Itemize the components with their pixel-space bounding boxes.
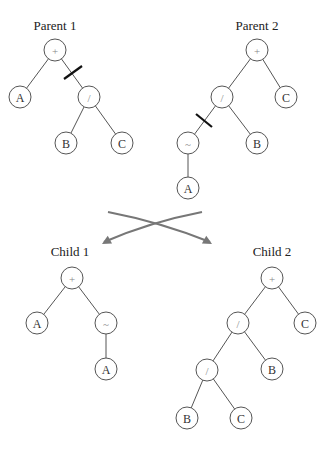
terminal-label: A: [102, 363, 111, 377]
tree-node-p2-tilde: ~: [177, 132, 199, 154]
crossover-diagram: +A/BC+/C~BA+A~A+/C/BBC Parent 1Parent 2C…: [0, 0, 329, 453]
tree-node-p2-c: C: [275, 86, 297, 108]
tree-node-p1-plus: +: [44, 39, 66, 61]
nodes-layer: +A/BC+/C~BA+A~A+/C/BBC: [9, 39, 316, 429]
tree-node-c2-c: C: [294, 312, 316, 334]
terminal-label: B: [183, 412, 191, 426]
crossover-arrows: [102, 212, 212, 244]
tree-node-c2-plus: +: [261, 267, 283, 289]
terminal-label: C: [282, 91, 290, 105]
edges-layer: [20, 50, 305, 418]
tree-node-c2-b: B: [261, 358, 283, 380]
tree-node-p2-b: B: [246, 132, 268, 154]
terminal-label: C: [118, 137, 126, 151]
crossover-cut-mark: [64, 66, 82, 79]
child-1-label: Child 1: [51, 244, 90, 259]
tree-node-c1-plus: +: [61, 267, 83, 289]
crossover-cut-mark: [196, 114, 212, 127]
operator-label: ~: [103, 318, 109, 330]
tree-node-p1-a: A: [9, 86, 31, 108]
child-2-label: Child 2: [253, 244, 292, 259]
tree-node-c2-div: /: [227, 312, 249, 334]
terminal-label: B: [62, 137, 70, 151]
arrow-to-child1: [104, 212, 202, 242]
terminal-label: A: [33, 317, 42, 331]
operator-label: +: [52, 45, 58, 57]
tree-node-c2-c2: C: [230, 407, 252, 429]
operator-label: +: [269, 273, 275, 285]
arrow-to-child2: [108, 212, 210, 242]
terminal-label: C: [237, 412, 245, 426]
terminal-label: A: [184, 182, 193, 196]
operator-label: +: [254, 45, 260, 57]
tree-node-p2-plus: +: [246, 39, 268, 61]
terminal-label: B: [253, 137, 261, 151]
tree-node-c1-a2: A: [95, 358, 117, 380]
operator-label: ~: [185, 138, 191, 150]
tree-node-p1-c: C: [111, 132, 133, 154]
terminal-label: B: [268, 363, 276, 377]
tree-node-p1-div: /: [78, 86, 100, 108]
terminal-label: C: [301, 317, 309, 331]
tree-node-c2-div2: /: [196, 359, 218, 381]
operator-label: +: [69, 273, 75, 285]
tree-node-c1-a: A: [26, 312, 48, 334]
tree-node-p2-a: A: [177, 177, 199, 199]
tree-node-p2-div: /: [211, 86, 233, 108]
tree-node-c2-b2: B: [176, 407, 198, 429]
parent-1-label: Parent 1: [34, 18, 77, 33]
terminal-label: A: [16, 91, 25, 105]
parent-2-label: Parent 2: [236, 18, 279, 33]
tree-node-p1-b: B: [55, 132, 77, 154]
tree-node-c1-tilde: ~: [95, 312, 117, 334]
